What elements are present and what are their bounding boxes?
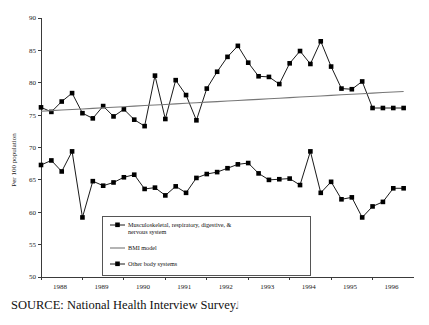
data-point-marker <box>194 118 199 123</box>
data-point-marker <box>142 124 147 129</box>
data-point-marker <box>49 158 54 163</box>
data-point-marker <box>142 187 147 192</box>
data-point-marker <box>153 185 158 190</box>
y-axis-title: Per 100 population <box>10 133 18 187</box>
data-point-marker <box>59 169 64 174</box>
data-point-marker <box>339 197 344 202</box>
data-point-marker <box>80 215 85 220</box>
data-point-marker <box>370 204 375 209</box>
data-point-marker <box>91 116 96 121</box>
data-point-marker <box>80 111 85 116</box>
data-point-marker <box>111 114 116 119</box>
line-chart: 505560657075808590 198819891990199119921… <box>0 0 429 325</box>
data-point-marker <box>91 179 96 184</box>
data-point-marker <box>132 117 137 122</box>
data-point-marker <box>350 195 355 200</box>
data-point-marker <box>360 215 365 220</box>
data-point-marker <box>215 170 220 175</box>
data-point-marker <box>298 49 303 54</box>
data-point-marker <box>225 55 230 60</box>
data-point-marker <box>236 162 241 167</box>
legend-label: Musculoskeletal, respiratory, digestive,… <box>128 221 232 228</box>
data-point-marker <box>381 106 386 111</box>
data-point-marker <box>329 180 334 185</box>
x-tick-label: 1989 <box>94 283 109 291</box>
data-point-marker <box>184 191 189 196</box>
data-point-marker <box>163 193 168 198</box>
data-point-marker <box>39 163 44 168</box>
chart-legend: Musculoskeletal, respiratory, digestive,… <box>102 216 310 275</box>
x-tick-label: 1992 <box>219 283 234 291</box>
x-tick-label: 1995 <box>343 283 358 291</box>
data-point-marker <box>39 105 44 110</box>
data-point-marker <box>308 62 313 67</box>
y-tick-label: 65 <box>29 176 37 184</box>
data-point-marker <box>350 87 355 92</box>
legend-label: nervous system <box>128 228 167 235</box>
x-tick-label: 1993 <box>260 283 275 291</box>
data-point-marker <box>381 200 386 205</box>
data-point-marker <box>256 74 261 79</box>
data-point-marker <box>318 191 323 196</box>
source-note: SOURCE: National Health Interview Survey… <box>11 298 238 313</box>
data-point-marker <box>163 117 168 122</box>
data-point-marker <box>277 82 282 87</box>
data-point-marker <box>298 183 303 188</box>
legend-marker <box>115 223 120 228</box>
data-point-marker <box>318 39 323 44</box>
data-point-marker <box>70 91 75 96</box>
legend-marker <box>115 262 120 267</box>
data-point-marker <box>287 61 292 66</box>
data-point-marker <box>101 183 106 188</box>
legend-label: Other body systems <box>128 260 178 267</box>
data-point-marker <box>225 166 230 171</box>
data-point-marker <box>329 64 334 69</box>
legend-label: BMI model <box>128 244 157 251</box>
y-tick-label: 70 <box>29 144 37 152</box>
x-tick-label: 1988 <box>53 283 68 291</box>
data-point-marker <box>401 186 406 191</box>
data-point-marker <box>370 106 375 111</box>
data-point-marker <box>59 99 64 104</box>
data-point-marker <box>122 175 127 180</box>
data-point-marker <box>204 86 209 91</box>
x-tick-label: 1991 <box>177 283 192 291</box>
data-point-marker <box>401 106 406 111</box>
data-point-marker <box>204 172 209 177</box>
data-point-marker <box>308 149 313 154</box>
data-point-marker <box>287 176 292 181</box>
figure-container: 505560657075808590 198819891990199119921… <box>0 0 429 325</box>
data-point-marker <box>246 161 251 166</box>
page-mark: | <box>237 300 239 309</box>
y-tick-label: 60 <box>29 209 37 217</box>
data-point-marker <box>153 73 158 78</box>
data-point-marker <box>173 78 178 83</box>
data-point-marker <box>267 178 272 183</box>
data-point-marker <box>215 69 220 74</box>
y-tick-label: 90 <box>29 14 37 22</box>
data-point-marker <box>267 75 272 80</box>
data-point-marker <box>132 172 137 177</box>
y-tick-label: 55 <box>29 241 37 249</box>
x-tick-label: 1996 <box>385 283 400 291</box>
y-tick-label: 80 <box>29 79 37 87</box>
y-tick-label: 50 <box>29 273 37 281</box>
data-point-marker <box>236 44 241 49</box>
data-point-marker <box>360 79 365 84</box>
data-point-marker <box>184 93 189 98</box>
data-point-marker <box>256 171 261 176</box>
data-point-marker <box>122 107 127 112</box>
data-point-marker <box>111 180 116 185</box>
y-tick-label: 85 <box>29 47 37 55</box>
data-point-marker <box>391 186 396 191</box>
x-tick-label: 1990 <box>136 283 151 291</box>
data-point-marker <box>339 86 344 91</box>
data-point-marker <box>246 60 251 65</box>
data-point-marker <box>391 106 396 111</box>
data-point-marker <box>173 184 178 189</box>
x-tick-label: 1994 <box>302 283 317 291</box>
y-tick-label: 75 <box>29 112 37 120</box>
plot-background <box>0 0 429 325</box>
data-point-marker <box>70 149 75 154</box>
data-point-marker <box>277 177 282 182</box>
